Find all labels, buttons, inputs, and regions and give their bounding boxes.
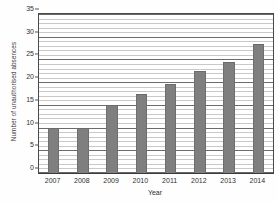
bar (48, 128, 60, 173)
y-axis-tick-label: 10 (16, 119, 34, 127)
y-axis-tick-label: 15 (16, 96, 34, 104)
x-axis-tick-label: 2014 (250, 176, 266, 185)
x-axis-tick-label: 2007 (45, 176, 61, 185)
x-axis-tick-label: 2010 (133, 176, 149, 185)
bar (223, 62, 235, 173)
x-axis-tick-label: 2008 (74, 176, 90, 185)
bar (136, 94, 148, 174)
bar-chart-figure: Number of unauthorised absences 05101520… (0, 0, 278, 202)
y-axis-tick-labels: 05101520253035 (16, 9, 34, 176)
bar (253, 44, 265, 173)
plot-area (38, 13, 274, 174)
x-axis-title: Year (38, 189, 272, 196)
y-axis-tick-label: 5 (16, 141, 34, 149)
y-axis-tick-label: 35 (16, 5, 34, 13)
x-axis-tick-label: 2013 (220, 176, 236, 185)
bar (165, 84, 177, 173)
x-axis-tick-label: 2012 (191, 176, 207, 185)
bars-layer (39, 14, 273, 173)
y-axis-tick-label: 25 (16, 50, 34, 58)
x-axis-tick-label: 2011 (162, 176, 177, 185)
y-axis-tick-mark (35, 9, 39, 10)
chart-title (0, 0, 278, 2)
x-axis-tick-labels: 20072008200920102011201220132014 (38, 176, 272, 188)
y-axis-tick-label: 0 (16, 164, 34, 172)
bar (194, 71, 206, 173)
x-axis-tick-label: 2009 (103, 176, 119, 185)
bar (106, 105, 118, 173)
y-axis-tick-label: 30 (16, 28, 34, 36)
bar (77, 128, 89, 173)
y-axis-tick-label: 20 (16, 73, 34, 81)
